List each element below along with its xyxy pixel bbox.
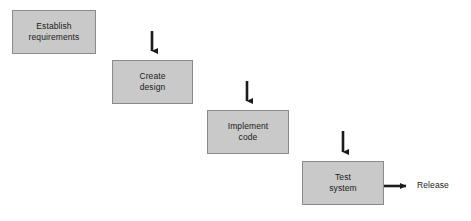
- stage-box-test-system[interactable]: Test system: [302, 161, 384, 205]
- stage-box-create-design[interactable]: Create design: [112, 60, 193, 104]
- connector-design-to-code: [193, 81, 247, 101]
- stage-label-test-system: Test system: [326, 172, 360, 194]
- waterfall-diagram-canvas: Establish requirements Create design Imp…: [0, 0, 471, 221]
- connector-requirements-to-design: [96, 31, 152, 51]
- stage-box-implement-code[interactable]: Implement code: [207, 110, 289, 154]
- connector-code-to-test: [289, 131, 343, 152]
- stage-box-establish-requirements[interactable]: Establish requirements: [12, 10, 96, 54]
- stage-label-establish-requirements: Establish requirements: [26, 21, 83, 43]
- stage-label-implement-code: Implement code: [225, 121, 272, 143]
- output-label-release: Release: [417, 180, 449, 191]
- stage-label-create-design: Create design: [136, 71, 168, 93]
